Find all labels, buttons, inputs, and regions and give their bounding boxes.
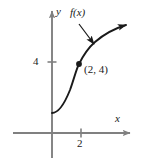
graph-canvas — [0, 0, 141, 166]
point-coordinate-label: (2, 4) — [84, 64, 108, 75]
x-axis-label: x — [115, 113, 120, 124]
y-axis-label: y — [56, 6, 61, 17]
function-label: f(x) — [70, 7, 85, 18]
y-tick-label-4: 4 — [33, 56, 39, 67]
fx-leader-arrow — [79, 24, 94, 44]
function-graph-figure: y x f(x) 4 2 (2, 4) — [0, 0, 141, 166]
point-marker-2-4 — [76, 61, 82, 67]
x-tick-label-2: 2 — [77, 138, 83, 149]
